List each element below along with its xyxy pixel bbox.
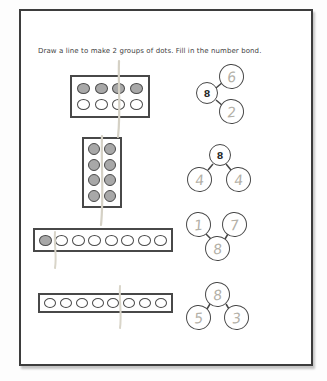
- worksheet-scan: Draw a line to make 2 groups of dots. Fi…: [0, 0, 327, 381]
- filled-dot: [130, 83, 143, 94]
- filled-dot: [88, 143, 100, 155]
- empty-dot: [92, 298, 104, 308]
- filled-dot: [88, 159, 100, 171]
- empty-dot: [138, 235, 151, 246]
- empty-dot: [130, 99, 143, 110]
- dot-box-row3: [33, 228, 173, 252]
- empty-dot: [95, 99, 108, 110]
- filled-dot: [104, 143, 116, 155]
- empty-dot: [55, 235, 68, 246]
- filled-dot: [104, 174, 116, 186]
- filled-dot: [88, 190, 100, 202]
- empty-dot: [123, 298, 135, 308]
- filled-dot: [112, 83, 125, 94]
- empty-dot: [88, 235, 101, 246]
- bond1-whole-circle: 8: [196, 82, 218, 104]
- filled-dot: [39, 235, 52, 246]
- empty-dot: [44, 298, 56, 308]
- filled-dot: [104, 159, 116, 171]
- filled-dot: [104, 190, 116, 202]
- dot-box-row2: [82, 137, 122, 208]
- bond2-whole-circle: 8: [209, 144, 231, 166]
- empty-dot: [76, 298, 88, 308]
- empty-dot: [107, 298, 119, 308]
- filled-dot: [95, 83, 108, 94]
- empty-dot: [60, 298, 72, 308]
- empty-dot: [77, 99, 90, 110]
- filled-dot: [77, 83, 90, 94]
- filled-dot: [88, 174, 100, 186]
- empty-dot: [139, 298, 151, 308]
- empty-dot: [155, 298, 167, 308]
- instruction-text: Draw a line to make 2 groups of dots. Fi…: [38, 47, 278, 55]
- empty-dot: [112, 99, 125, 110]
- empty-dot: [105, 235, 118, 246]
- empty-dot: [72, 235, 85, 246]
- dot-box-row1: [70, 75, 150, 118]
- empty-dot: [154, 235, 167, 246]
- dot-box-row4: [38, 293, 173, 313]
- empty-dot: [121, 235, 134, 246]
